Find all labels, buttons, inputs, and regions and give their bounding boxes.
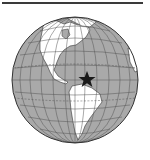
- globe-illustration: [0, 0, 150, 160]
